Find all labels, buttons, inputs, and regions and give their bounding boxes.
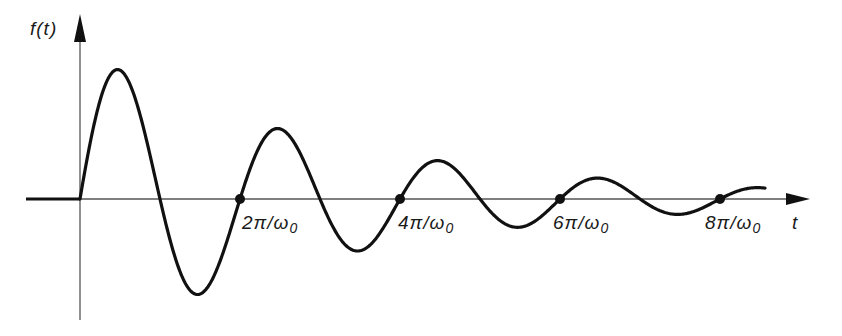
tick-label-main: 8π/ω — [705, 212, 752, 233]
plot-canvas — [0, 0, 842, 336]
tick-label-8pi: 8π/ω0 — [705, 212, 760, 236]
y-axis-arrow-icon — [74, 14, 86, 42]
tick-label-sub: 0 — [289, 220, 297, 236]
tick-label-sub: 0 — [752, 220, 760, 236]
y-axis-label: f(t) — [30, 18, 57, 40]
tick-label-2pi: 2π/ω0 — [242, 212, 297, 236]
tick-label-4pi: 4π/ω0 — [398, 212, 453, 236]
tick-label-main: 4π/ω — [398, 212, 445, 233]
point-6pi — [555, 194, 565, 204]
point-8pi — [715, 194, 725, 204]
tick-label-6pi: 6π/ω0 — [553, 212, 608, 236]
tick-label-sub: 0 — [445, 220, 453, 236]
x-axis-arrow-icon — [786, 193, 810, 205]
x-axis-label: t — [792, 212, 798, 234]
tick-label-main: 6π/ω — [553, 212, 600, 233]
damped-oscillation-diagram: f(t) t 2π/ω0 4π/ω0 6π/ω0 8π/ω0 — [0, 0, 842, 336]
tick-label-main: 2π/ω — [242, 212, 289, 233]
point-4pi — [395, 194, 405, 204]
damped-sine-curve — [80, 70, 765, 295]
point-2pi — [235, 194, 245, 204]
tick-label-sub: 0 — [600, 220, 608, 236]
